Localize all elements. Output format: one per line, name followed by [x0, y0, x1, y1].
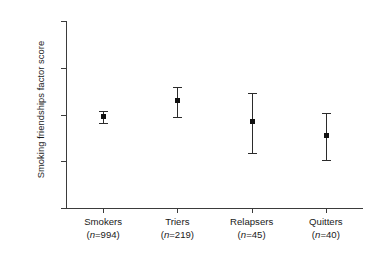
x-tick-mark — [252, 208, 253, 213]
x-tick-mark — [103, 208, 104, 213]
x-tick-mark — [177, 208, 178, 213]
x-category-name: Smokers — [84, 216, 122, 227]
x-axis-line — [66, 208, 363, 209]
error-bar-cap-lower — [173, 117, 182, 118]
error-bar-cap-upper — [322, 113, 331, 114]
data-point-marker — [175, 98, 180, 103]
error-bar-cap-upper — [248, 93, 257, 94]
y-axis-title: Smoking friendships factor score — [35, 15, 46, 205]
x-tick-mark — [326, 208, 327, 213]
x-category-name: Triers — [165, 216, 189, 227]
y-tick-mark — [61, 21, 66, 22]
x-category-label: Quitters(n=40) — [281, 216, 371, 241]
x-category-name: Relapsers — [230, 216, 273, 227]
error-bar-cap-upper — [173, 87, 182, 88]
y-tick-mark — [61, 161, 66, 162]
y-tick-mark — [61, 208, 66, 209]
data-point-marker — [101, 114, 106, 119]
error-bar-cap-upper — [99, 111, 108, 112]
data-point-marker — [250, 119, 255, 124]
y-tick-mark — [61, 68, 66, 69]
y-axis-line — [66, 21, 67, 209]
error-bar-cap-lower — [322, 160, 331, 161]
y-tick-mark — [61, 115, 66, 116]
chart-figure: Smoking friendships factor score 1.00.50… — [0, 0, 376, 255]
x-category-name: Quitters — [309, 216, 343, 227]
data-point-marker — [324, 133, 329, 138]
error-bar-cap-lower — [248, 153, 257, 154]
error-bar-cap-lower — [99, 123, 108, 124]
x-category-sample-size: (n=40) — [281, 229, 371, 242]
